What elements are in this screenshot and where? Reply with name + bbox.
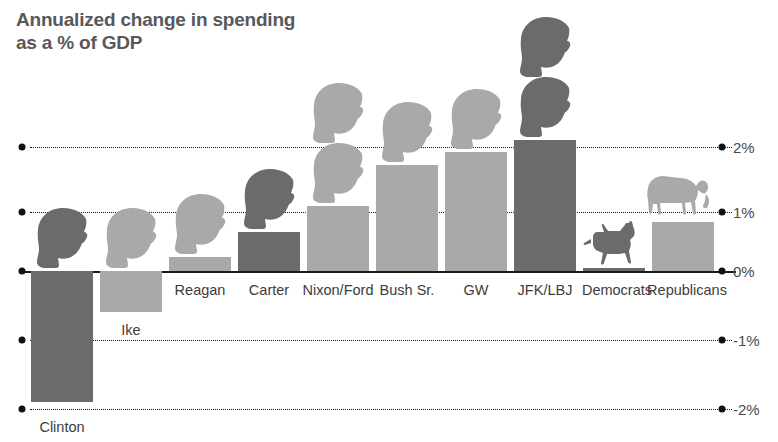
category-label-republicans: Republicans xyxy=(647,282,727,298)
bar-carter xyxy=(238,232,300,271)
category-label-gw: GW xyxy=(464,282,489,298)
president-head-silhouette-ike xyxy=(102,207,160,269)
president-head-silhouette-nixon-ford xyxy=(309,82,367,144)
category-label-bush-sr: Bush Sr. xyxy=(380,282,435,298)
president-head-silhouette-jfk-lbj xyxy=(516,16,574,78)
axis-dot-left-neg1pct xyxy=(19,337,26,344)
donkey-icon-democrats xyxy=(583,220,645,268)
president-head-silhouette-reagan xyxy=(171,193,229,255)
president-head-silhouette-nixon-ford xyxy=(309,142,367,204)
spending-change-chart: Annualized change in spending as a % of … xyxy=(0,0,778,442)
axis-dot-left-0pct xyxy=(19,268,26,275)
bar-reagan xyxy=(169,257,231,271)
axis-label-1pct: 1% xyxy=(733,204,755,221)
axis-label-0pct: 0% xyxy=(733,263,755,280)
category-label-carter: Carter xyxy=(249,282,289,298)
president-head-silhouette-gw xyxy=(447,88,505,150)
president-head-silhouette-carter xyxy=(240,168,298,230)
page-title: Annualized change in spending as a % of … xyxy=(16,8,436,54)
president-head-silhouette-clinton xyxy=(33,207,91,269)
bar-jfk-lbj xyxy=(514,140,576,271)
bar-ike xyxy=(100,271,162,312)
category-label-reagan: Reagan xyxy=(175,282,226,298)
category-label-clinton: Clinton xyxy=(39,419,84,435)
axis-dot-left-neg2pct xyxy=(19,406,26,413)
bar-republicans xyxy=(652,222,714,271)
bar-nixon-ford xyxy=(307,206,369,272)
president-head-silhouette-bush-sr xyxy=(378,101,436,163)
category-label-nixon-ford: Nixon/Ford xyxy=(303,282,374,298)
axis-label-neg1pct: -1% xyxy=(733,332,760,349)
axis-label-neg2pct: -2% xyxy=(733,401,760,418)
axis-dot-left-1pct xyxy=(19,209,26,216)
axis-dot-right-0pct xyxy=(719,268,726,275)
bar-democrats xyxy=(583,268,645,271)
axis-dot-right-2pct xyxy=(719,144,726,151)
axis-dot-right-neg1pct xyxy=(719,337,726,344)
bar-bush-sr xyxy=(376,165,438,271)
gridline-neg2pct xyxy=(30,409,732,410)
gridline-neg1pct xyxy=(30,340,732,341)
axis-dot-left-2pct xyxy=(19,144,26,151)
axis-label-2pct: 2% xyxy=(733,139,755,156)
category-label-democrats: Democrats xyxy=(582,282,652,298)
elephant-icon-republicans xyxy=(645,172,721,222)
category-label-ike: Ike xyxy=(121,322,140,338)
president-head-silhouette-jfk-lbj xyxy=(516,76,574,138)
bar-gw xyxy=(445,152,507,271)
axis-dot-right-neg2pct xyxy=(719,406,726,413)
bar-clinton xyxy=(31,271,93,402)
category-label-jfk-lbj: JFK/LBJ xyxy=(518,282,573,298)
